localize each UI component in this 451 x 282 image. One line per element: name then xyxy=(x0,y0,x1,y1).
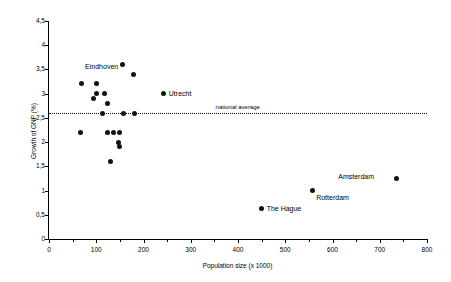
data-point xyxy=(105,130,110,135)
y-axis-tick-label: 3,5 xyxy=(36,64,45,73)
data-point xyxy=(108,159,113,164)
y-axis-tick-mark xyxy=(45,166,49,167)
y-axis-tick-mark xyxy=(45,191,49,192)
y-axis-tick-mark xyxy=(45,69,49,70)
y-axis-tick-label: 3 xyxy=(41,89,45,98)
y-axis-title-container: Growth of GNP (%) xyxy=(0,21,16,240)
y-axis-tick-label: 4 xyxy=(41,40,45,49)
x-axis-tick-mark xyxy=(380,239,381,243)
x-axis-tick-mark xyxy=(49,239,50,243)
data-point xyxy=(161,91,166,96)
x-axis-tick-label: 200 xyxy=(138,245,149,254)
point-annotation-rotterdam: Rotterdam xyxy=(316,194,349,202)
x-axis-tick-mark xyxy=(427,239,428,243)
x-axis-minor-tick-mark xyxy=(309,239,310,242)
y-axis-tick-mark xyxy=(45,45,49,46)
x-axis-minor-tick-mark xyxy=(73,239,74,242)
data-point xyxy=(259,206,264,211)
data-point xyxy=(394,176,399,181)
y-axis-tick-mark xyxy=(45,142,49,143)
data-point xyxy=(310,188,315,193)
data-point xyxy=(105,101,110,106)
x-axis-title: Population size (x 1000) xyxy=(48,262,427,269)
x-axis-tick-label: 500 xyxy=(280,245,291,254)
x-axis-tick-label: 100 xyxy=(91,245,102,254)
data-point xyxy=(78,130,83,135)
y-axis-title: Growth of GNP (%) xyxy=(30,103,37,159)
data-point xyxy=(79,81,84,86)
y-axis-tick-label: 2,5 xyxy=(36,113,45,122)
x-axis-tick-mark xyxy=(96,239,97,243)
data-point xyxy=(117,130,122,135)
data-point xyxy=(120,62,125,67)
scatter-chart-figure: Growth of GNP (%) national averageEindho… xyxy=(0,0,451,282)
plot-area: national averageEindhovenUtrechtAmsterda… xyxy=(48,21,427,240)
data-point xyxy=(111,130,116,135)
data-point xyxy=(121,111,126,116)
x-axis-minor-tick-mark xyxy=(167,239,168,242)
x-axis-tick-label: 0 xyxy=(47,245,51,254)
x-axis-tick-mark xyxy=(238,239,239,243)
point-annotation-the-hague: The Hague xyxy=(267,205,302,213)
y-axis-tick-mark xyxy=(45,94,49,95)
x-axis-tick-label: 400 xyxy=(233,245,244,254)
x-axis-tick-label: 700 xyxy=(374,245,385,254)
x-axis-minor-tick-mark xyxy=(356,239,357,242)
x-axis-minor-tick-mark xyxy=(214,239,215,242)
data-point xyxy=(100,111,105,116)
y-axis-tick-label: 0 xyxy=(41,234,45,243)
data-point xyxy=(94,81,99,86)
x-axis-tick-mark xyxy=(191,239,192,243)
y-axis-tick-mark xyxy=(45,215,49,216)
point-annotation-utrecht: Utrecht xyxy=(169,90,192,98)
national-average-line xyxy=(49,113,427,114)
x-axis-tick-label: 300 xyxy=(185,245,196,254)
x-axis-tick-label: 800 xyxy=(422,245,433,254)
y-axis-tick-label: 4,5 xyxy=(36,16,45,25)
data-point xyxy=(132,111,137,116)
x-axis-minor-tick-mark xyxy=(120,239,121,242)
plot-inner: national averageEindhovenUtrechtAmsterda… xyxy=(49,21,427,239)
x-axis-minor-tick-mark xyxy=(403,239,404,242)
x-axis-tick-label: 600 xyxy=(327,245,338,254)
y-axis-tick-label: 1,5 xyxy=(36,161,45,170)
x-axis-minor-tick-mark xyxy=(262,239,263,242)
data-point xyxy=(91,96,96,101)
national-average-label: national average xyxy=(214,104,262,110)
x-axis-tick-mark xyxy=(333,239,334,243)
y-axis-tick-label: 0,5 xyxy=(36,210,45,219)
data-point xyxy=(102,91,107,96)
data-point xyxy=(131,72,136,77)
y-axis-tick-label: 2 xyxy=(41,137,45,146)
y-axis-tick-label: 1 xyxy=(41,186,45,195)
point-annotation-eindhoven: Eindhoven xyxy=(85,63,118,71)
data-point xyxy=(117,144,122,149)
point-annotation-amsterdam: Amsterdam xyxy=(338,173,374,181)
x-axis-tick-mark xyxy=(285,239,286,243)
y-axis-tick-mark xyxy=(45,21,49,22)
y-axis-tick-mark xyxy=(45,118,49,119)
x-axis-tick-mark xyxy=(144,239,145,243)
